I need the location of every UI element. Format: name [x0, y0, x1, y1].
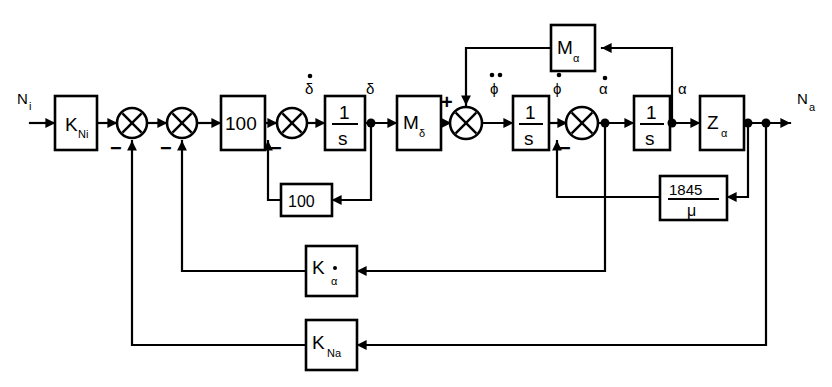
feedback-k-na	[132, 123, 766, 345]
signal-label-output: N a	[797, 90, 816, 113]
sum-4-sign-plus: +	[441, 91, 453, 113]
block-fb-100[interactable]: 100	[281, 184, 332, 216]
output-label-subscript: a	[809, 101, 816, 113]
m-delta-subscript: δ	[419, 127, 425, 139]
block-m-alpha[interactable]: M α	[551, 25, 595, 71]
node-alpha	[668, 119, 677, 128]
z-alpha-label: Z	[707, 112, 719, 133]
integrator-3-denominator: s	[645, 128, 655, 149]
fb-100-label: 100	[288, 193, 315, 210]
block-fb-1845[interactable]: 1845 μ	[660, 176, 727, 220]
m-delta-label: M	[403, 112, 419, 133]
input-label-subscript: i	[29, 100, 31, 112]
phi-dot-label: ϕ	[553, 80, 561, 97]
alpha-dot-label: α	[599, 80, 608, 97]
signal-label-alpha-dot: α	[599, 76, 608, 97]
input-label: N	[17, 90, 28, 107]
delta-label: δ	[366, 80, 374, 97]
delta-dot-label: δ	[305, 80, 313, 97]
sum-5-sign-minus: −	[559, 137, 571, 159]
signal-label-phi-ddot: ϕ	[490, 73, 503, 97]
phi-ddot-overdot-left	[490, 73, 495, 78]
signal-label-phi-dot: ϕ	[553, 73, 561, 97]
node-output-2	[762, 119, 771, 128]
signal-label-input: N i	[17, 90, 31, 112]
m-alpha-subscript: α	[573, 52, 580, 64]
integrator-3-numerator: 1	[646, 102, 657, 123]
node-delta	[367, 119, 376, 128]
wire-kna-to-sum1	[132, 141, 306, 345]
block-z-alpha[interactable]: Z α	[700, 96, 744, 150]
block-integrator-3[interactable]: 1 s	[634, 96, 670, 150]
block-integrator-1[interactable]: 1 s	[325, 96, 365, 150]
fb-1845-numerator: 1845	[669, 181, 702, 198]
fb-1845-denominator: μ	[687, 202, 696, 219]
k-na-subscript: Na	[327, 347, 342, 359]
node-alphadot	[601, 119, 610, 128]
alpha-dot-overdot	[603, 76, 608, 81]
k-ni-subscript: Ni	[78, 128, 88, 140]
block-k-ni[interactable]: K Ni	[55, 96, 97, 150]
sum-1-sign-minus: −	[110, 137, 122, 159]
z-alpha-subscript: α	[721, 127, 728, 139]
node-output-1	[744, 119, 753, 128]
phi-ddot-label: ϕ	[490, 80, 498, 97]
integrator-2-denominator: s	[524, 128, 534, 149]
summing-junction-5[interactable]: −	[559, 107, 598, 159]
integrator-1-numerator: 1	[339, 102, 350, 123]
integrator-2-numerator: 1	[525, 102, 536, 123]
summing-junction-3[interactable]: −	[270, 108, 307, 159]
delta-dot-overdot	[308, 74, 313, 79]
block-gain-100[interactable]: 100	[221, 96, 265, 150]
sum-2-sign-minus: −	[160, 137, 172, 159]
k-alphadot-subscript: α	[331, 275, 338, 287]
phi-dot-overdot	[557, 73, 562, 78]
summing-junction-2[interactable]: −	[160, 108, 197, 159]
block-integrator-2[interactable]: 1 s	[513, 96, 549, 150]
summing-junction-4[interactable]: +	[441, 91, 482, 139]
block-k-na[interactable]: K Na	[306, 320, 357, 370]
m-alpha-label: M	[557, 37, 573, 58]
signal-label-delta-dot: δ	[305, 74, 313, 97]
phi-ddot-overdot-right	[498, 73, 503, 78]
sum-3-sign-minus: −	[270, 137, 282, 159]
block-k-alphadot[interactable]: K α	[306, 246, 357, 296]
k-ni-label: K	[65, 114, 78, 135]
block-m-delta[interactable]: M δ	[397, 96, 441, 150]
k-na-label: K	[312, 332, 325, 353]
output-label: N	[797, 90, 808, 107]
summing-junction-1[interactable]: −	[110, 108, 147, 159]
integrator-1-denominator: s	[338, 128, 348, 149]
control-system-block-diagram: K Ni 100 1 s M δ 1 s 1 s Z α	[0, 0, 832, 387]
k-alphadot-label: K	[312, 257, 325, 278]
gain-100-label: 100	[225, 113, 257, 134]
alpha-label: α	[678, 80, 687, 97]
k-alphadot-overdot	[333, 266, 337, 270]
